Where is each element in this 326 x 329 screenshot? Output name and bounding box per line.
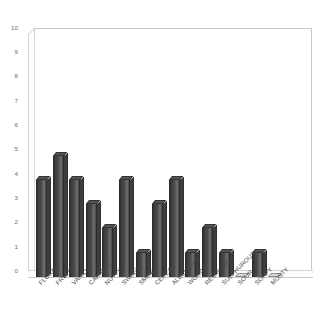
x-axis-tick-label-musty: MUSTY	[269, 265, 290, 286]
x-axis: FLORALFRUITYVANILLACARAMELNUTTYSWEETSMOK…	[0, 0, 326, 329]
bar-chart: 109876543210 FLORALFRUITYVANILLACARAMELN…	[0, 0, 326, 329]
